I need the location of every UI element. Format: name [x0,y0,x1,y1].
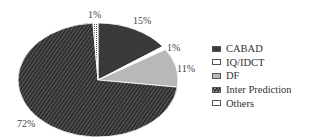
pie-slices [18,23,178,137]
legend-item-others: Others [212,96,292,110]
swatch-others-icon [212,100,221,106]
legend-item-df: DF [212,69,292,83]
legend-label: DF [226,70,239,81]
legend-label: Others [226,98,254,109]
legend-label: CABAD [226,43,263,54]
swatch-iq-idct-icon [212,59,221,65]
label-iq-idct: 1% [167,42,180,53]
legend-label: Inter Prediction [226,84,292,95]
swatch-cabad-icon [212,46,221,52]
label-cabad: 15% [133,15,151,26]
legend-item-cabad: CABAD [212,42,292,56]
legend-item-iq-idct: IQ/IDCT [212,56,292,70]
swatch-inter-prediction-icon [212,87,221,93]
legend: CABAD IQ/IDCT DF Inter Prediction Others [212,42,292,110]
swatch-df-icon [212,73,221,79]
legend-label: IQ/IDCT [226,57,265,68]
label-others: 1% [88,9,101,20]
label-df: 11% [177,63,195,74]
label-inter-prediction: 72% [17,118,35,129]
legend-item-inter-prediction: Inter Prediction [212,83,292,97]
